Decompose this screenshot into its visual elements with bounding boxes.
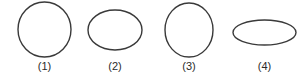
option-group-2[interactable]: (2)	[88, 10, 142, 72]
shape-options-canvas: (1) (2) (3) (4)	[0, 0, 307, 77]
option-shape-ellipse-flat[interactable]	[233, 20, 296, 45]
option-label-1: (1)	[38, 60, 51, 72]
option-label-2: (2)	[108, 60, 121, 72]
option-shape-circle[interactable]	[18, 2, 71, 57]
shape-options-figure: (1) (2) (3) (4)	[0, 0, 307, 77]
option-label-3: (3)	[182, 60, 195, 72]
option-label-4: (4)	[258, 60, 271, 72]
option-group-4[interactable]: (4)	[233, 20, 296, 72]
option-shape-ellipse-tall[interactable]	[165, 3, 213, 57]
option-group-3[interactable]: (3)	[165, 3, 213, 72]
option-group-1[interactable]: (1)	[18, 2, 71, 72]
option-shape-ellipse-wide[interactable]	[88, 10, 142, 50]
